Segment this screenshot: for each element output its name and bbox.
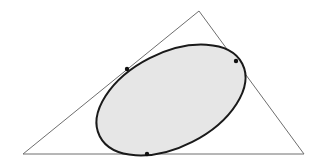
tangent-point-base [145, 152, 149, 156]
tangent-point-left-side [125, 67, 129, 71]
inscribed-ellipse [78, 22, 263, 165]
tangent-point-right-side [234, 59, 238, 63]
triangle-inellipse-diagram [0, 0, 322, 165]
